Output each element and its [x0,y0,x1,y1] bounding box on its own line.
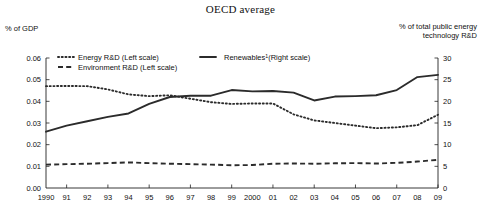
x-axis-tick-labels: 1990919293949596979899200001020304050607… [38,193,443,202]
legend-label-2: Renewables1(Right scale) [224,53,311,62]
right-axis-tick-25: 25 [443,75,451,84]
x-axis-tick-08: 08 [413,193,421,202]
chart-container: OECD average % of GDP % of total public … [0,0,481,223]
legend-label-main: Renewables [224,53,266,62]
x-axis-tick-1990: 1990 [38,193,55,202]
right-axis-tick-10: 10 [443,140,451,149]
series-line-energy-rd [46,86,438,128]
plot-svg: 0.000.010.020.030.040.050.06 05101520253… [0,0,481,223]
x-axis-tick-06: 06 [372,193,380,202]
x-axis-tick-04: 04 [331,193,339,202]
x-axis-tick-02: 02 [289,193,297,202]
left-axis-tick-0.00: 0.00 [26,184,41,193]
x-axis-tick-98: 98 [207,193,215,202]
legend-label-tail: (Right scale) [268,53,311,62]
x-axis-tick-03: 03 [310,193,318,202]
left-axis-tick-0.06: 0.06 [26,54,41,63]
x-axis-tick-93: 93 [104,193,112,202]
left-axis-tick-0.02: 0.02 [26,140,41,149]
right-axis-tick-20: 20 [443,97,451,106]
x-axis-tick-05: 05 [351,193,359,202]
x-axis-tick-96: 96 [166,193,174,202]
left-axis-tick-0.03: 0.03 [26,119,41,128]
legend-label-1: Environment R&D (Left scale) [78,63,178,72]
plot-frame [46,58,438,188]
x-axis-tick-07: 07 [393,193,401,202]
left-axis-tick-0.01: 0.01 [26,162,41,171]
x-axis-tick-09: 09 [434,193,442,202]
x-axis-tick-94: 94 [124,193,132,202]
chart-legend: Energy R&D (Left scale)Environment R&D (… [58,53,311,72]
right-axis-tick-15: 15 [443,119,451,128]
left-axis-tick-0.04: 0.04 [26,97,41,106]
series-line-environment-rd [46,160,438,165]
right-axis-tick-5: 5 [443,162,447,171]
x-axis-tick-2000: 2000 [244,193,261,202]
x-axis-tick-99: 99 [228,193,236,202]
axis-tickmarks [46,58,438,188]
left-axis-tick-labels: 0.000.010.020.030.040.050.06 [26,54,41,193]
x-axis-tick-01: 01 [269,193,277,202]
right-axis-tick-30: 30 [443,54,451,63]
right-axis-tick-labels: 051015202530 [443,54,451,193]
left-axis-tick-0.05: 0.05 [26,75,41,84]
x-axis-tick-92: 92 [83,193,91,202]
x-axis-tick-95: 95 [145,193,153,202]
x-axis-tick-97: 97 [186,193,194,202]
legend-label-0: Energy R&D (Left scale) [78,53,159,62]
right-axis-tick-0: 0 [443,184,447,193]
x-axis-tick-91: 91 [62,193,70,202]
